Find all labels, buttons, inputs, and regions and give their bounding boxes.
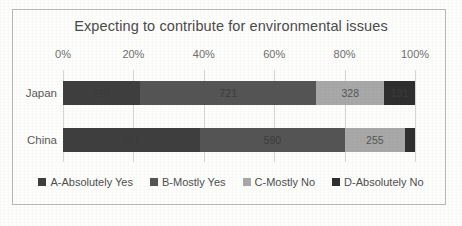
legend-label: D-Absolutely No <box>344 176 423 188</box>
chart-legend: A-Absolutely YesB-Mostly YesC-Mostly NoD… <box>0 176 462 188</box>
legend-swatch-icon <box>332 178 340 186</box>
bar-segment-value-label: 131 <box>391 88 409 99</box>
legend-item[interactable]: B-Mostly Yes <box>150 176 226 188</box>
bar-segment: 255 <box>345 128 405 152</box>
legend-swatch-icon <box>38 178 46 186</box>
x-tick-label: 0% <box>55 48 71 60</box>
chart-container: Expecting to contribute for environmenta… <box>0 0 462 226</box>
legend-item[interactable]: D-Absolutely No <box>332 176 423 188</box>
x-tick-label: 60% <box>263 48 285 60</box>
plot-area: 220721328131681590255 <box>63 70 415 162</box>
bar-row: 681590255 <box>63 128 415 152</box>
bar-segment: 131 <box>384 81 415 105</box>
x-tick-label: 100% <box>401 48 429 60</box>
y-axis-category-labels: JapanChina <box>0 70 57 162</box>
y-axis-category-label: China <box>27 134 57 146</box>
bar-segment: 220 <box>63 81 140 105</box>
bar-segment <box>405 128 415 152</box>
chart-title: Expecting to contribute for environmenta… <box>0 18 462 34</box>
bar-segment-value-label: 721 <box>219 88 237 99</box>
y-axis-category-label: Japan <box>26 87 57 99</box>
legend-label: A-Absolutely Yes <box>50 176 133 188</box>
x-tick-label: 20% <box>122 48 144 60</box>
bar-segment-value-label: 328 <box>341 88 359 99</box>
legend-swatch-icon <box>150 178 158 186</box>
bar-segment: 721 <box>140 81 316 105</box>
bar-segment-value-label: 255 <box>366 135 384 146</box>
bar-segment-value-label: 590 <box>264 135 282 146</box>
gridline <box>415 70 416 162</box>
bar-segment: 681 <box>63 128 200 152</box>
legend-label: B-Mostly Yes <box>162 176 226 188</box>
legend-item[interactable]: A-Absolutely Yes <box>38 176 133 188</box>
legend-swatch-icon <box>243 178 251 186</box>
x-axis-tick-labels: 0%20%40%60%80%100% <box>63 48 415 64</box>
bar-segment: 590 <box>200 128 345 152</box>
x-tick-label: 40% <box>193 48 215 60</box>
bar-segment-value-label: 681 <box>123 135 141 146</box>
x-tick-label: 80% <box>334 48 356 60</box>
legend-label: C-Mostly No <box>255 176 316 188</box>
bar-segment-value-label: 220 <box>93 88 111 99</box>
legend-item[interactable]: C-Mostly No <box>243 176 316 188</box>
bar-row: 220721328131 <box>63 81 415 105</box>
bar-segment: 328 <box>316 81 384 105</box>
